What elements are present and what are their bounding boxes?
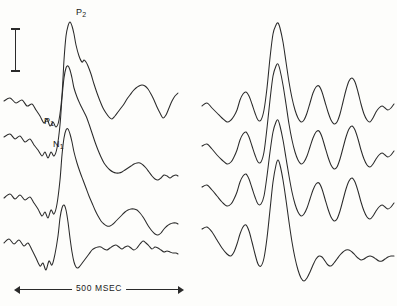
peak-label-p2: P2 <box>76 8 86 17</box>
waveform-trace <box>202 120 394 221</box>
waveform-traces-left <box>0 0 200 306</box>
waveform-trace <box>202 23 394 124</box>
waveform-trace <box>4 205 178 270</box>
peak-label-p1-subscript: 1 <box>50 120 54 127</box>
time-scale-arrow-right-icon <box>178 286 184 294</box>
erp-waveform-figure: P2 P1 N1 500 MSEC <box>0 0 397 306</box>
peak-label-p2-subscript: 2 <box>82 11 86 18</box>
time-scale-bar: 500 MSEC <box>14 281 184 297</box>
peak-label-n1-text: N <box>53 139 60 149</box>
waveform-panel-right <box>197 0 397 306</box>
waveform-trace <box>4 22 178 127</box>
peak-label-n1: N1 <box>53 140 64 149</box>
waveform-panel-left <box>0 0 200 306</box>
waveform-trace <box>4 66 178 180</box>
time-scale-label: 500 MSEC <box>72 282 126 294</box>
waveform-traces-right <box>197 0 397 306</box>
waveform-trace <box>4 129 178 235</box>
peak-label-n1-subscript: 1 <box>60 143 64 150</box>
waveform-trace <box>202 160 394 281</box>
peak-label-p1: P1 <box>44 117 54 126</box>
